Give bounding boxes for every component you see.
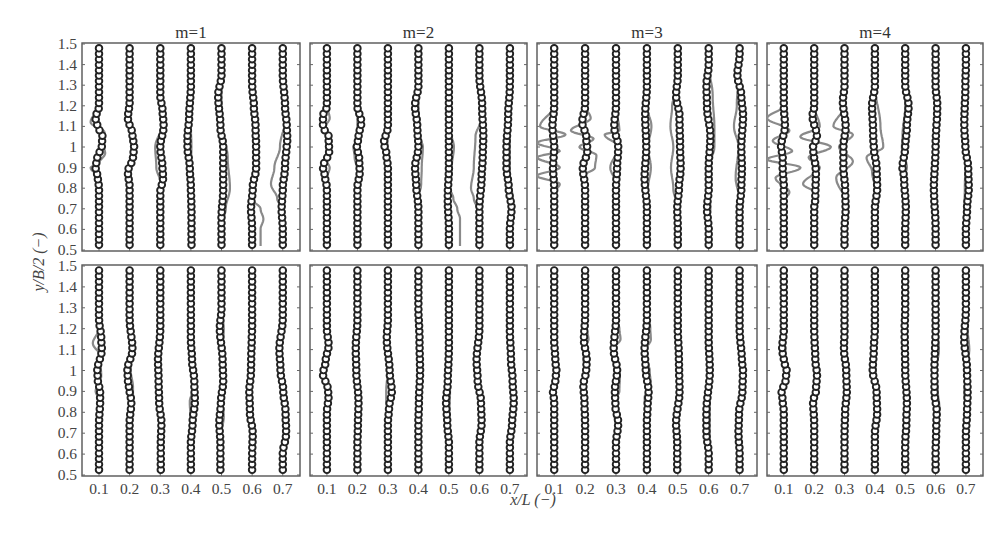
x-tick-label: 0.2 [348,480,367,497]
x-tick-label: 0.2 [575,480,594,497]
y-tick-label: 0.9 [58,382,78,399]
measured-profile-markers [610,267,621,473]
measured-profile-markers [184,45,195,248]
x-tick-label: 0.7 [956,480,976,497]
measured-profile-markers [778,267,790,473]
panel-m=2: m=2 [310,23,527,251]
panel-row1-col1: 0.10.20.30.40.50.60.7 [310,265,527,497]
y-tick-label: 0.6 [58,220,78,237]
y-tick-label: 1.4 [58,56,78,73]
y-tick-label: 0.5 [58,466,78,483]
x-tick-label: 0.6 [470,480,490,497]
measured-profile-markers [124,267,136,473]
measured-profile-markers [961,45,972,248]
x-tick-label: 0.5 [212,480,232,497]
y-tick-label: 1.2 [58,320,77,337]
panel-title: m=1 [175,23,206,42]
measured-profile-markers [381,45,391,248]
y-tick-label: 1.3 [58,76,78,93]
measured-profile-markers [415,267,423,473]
panel-row1-col3: 0.10.20.30.40.50.60.7 [767,265,983,497]
y-tick-label: 1.3 [58,299,78,316]
x-tick-label: 0.3 [606,480,626,497]
y-tick-label: 0.6 [58,445,78,462]
panel-m=1: m=10.50.60.70.80.911.11.21.31.41.5 [58,23,300,258]
x-tick-label: 0.1 [317,480,336,497]
measured-profile-markers [673,267,683,473]
x-tick-label: 0.7 [273,480,293,497]
measured-profile-markers [354,45,365,248]
y-tick-label: 0.9 [58,159,78,176]
x-tick-label: 0.5 [439,480,459,497]
measured-profile-markers [703,267,713,473]
measured-profile-markers [157,45,167,248]
measured-profile-markers [810,267,821,473]
y-tick-label: 1.5 [58,257,78,274]
measured-profile-markers [246,267,256,473]
measured-profile-markers [215,45,227,248]
measured-profile-markers [155,267,165,473]
x-tick-label: 0.6 [699,480,719,497]
measured-profile-markers [841,267,850,473]
measured-profile-markers [549,45,557,248]
x-tick-label: 0.2 [805,480,824,497]
x-tick-label: 0.2 [120,480,139,497]
measured-profile-markers [931,45,941,248]
x-tick-label: 0.4 [409,480,429,497]
y-tick-label: 0.7 [58,424,78,441]
measured-profile-markers [443,267,452,473]
x-axis-label: x/L (−) [509,491,556,509]
y-tick-label: 0.5 [58,241,78,258]
measured-profile-markers [94,267,105,473]
measured-profile-markers [320,45,333,248]
y-tick-label: 1.1 [58,117,77,134]
x-tick-label: 0.4 [181,480,201,497]
measured-profile-markers [550,267,560,473]
panel-row1-col2: 0.10.20.30.40.50.60.7 [537,265,757,497]
y-tick-label: 1.2 [58,97,77,114]
measured-profile-markers [580,267,590,473]
measured-profile-markers [384,267,396,473]
panel-row1-col0: 0.50.60.70.80.911.11.21.31.41.50.10.20.3… [58,257,300,497]
y-tick-label: 1 [69,362,77,379]
measured-profile-markers [353,267,362,473]
measured-profile-markers [869,267,880,473]
y-tick-label: 0.7 [58,200,78,217]
measured-profile-markers [320,267,332,473]
x-tick-label: 0.3 [835,480,855,497]
x-tick-label: 0.6 [926,480,946,497]
measured-profile-markers [961,267,971,473]
measured-profile-markers [125,45,138,248]
measured-profile-markers [473,267,485,473]
x-tick-label: 0.7 [730,480,750,497]
measured-profile-markers [735,267,746,473]
y-tick-label: 1 [69,138,77,155]
measured-profile-markers [869,45,881,248]
measured-profile-markers [276,267,289,473]
measured-profile-markers [188,267,199,473]
x-tick-label: 0.1 [774,480,793,497]
x-tick-label: 0.5 [896,480,916,497]
measured-profile-markers [899,45,912,248]
measured-profile-markers [476,45,487,248]
panel-title: m=2 [403,23,434,42]
panel-title: m=4 [859,23,891,42]
measured-profile-markers [445,45,453,248]
panel-grid: m=10.50.60.70.80.911.11.21.31.41.5m=2m=3… [58,23,983,497]
panel-m=3: m=3 [537,23,757,251]
measured-profile-markers [412,45,422,248]
measured-profile-markers [248,45,260,248]
y-tick-label: 0.8 [58,403,78,420]
measured-profile-markers [734,45,746,248]
measured-profile-markers [507,267,517,473]
x-tick-label: 0.4 [865,480,885,497]
measured-profile-markers [840,45,849,248]
measured-profile-markers [611,45,622,248]
x-tick-label: 0.6 [242,480,262,497]
measured-profile-markers [809,45,820,248]
measured-profile-markers [931,267,940,473]
figure: m=10.50.60.70.80.911.11.21.31.41.5m=2m=3… [0,0,1008,546]
measured-profile-markers [503,45,515,248]
measured-profile-markers [901,267,910,473]
measured-profile-markers [673,45,684,248]
